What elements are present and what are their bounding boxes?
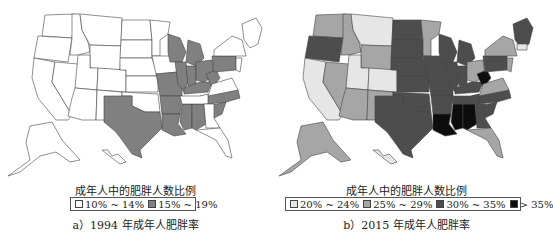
us-map-1994 — [0, 0, 271, 180]
state-nj — [236, 58, 242, 72]
state-ms — [180, 104, 192, 130]
state-or — [34, 36, 72, 62]
legend-1994: 10% ~ 14% 15% ~ 19% — [70, 197, 196, 211]
panel-2015: 成年人中的肥胖人数比例 20% ~ 24% 25% ~ 29% 30% ~ 35… — [271, 0, 542, 236]
state-al — [192, 104, 206, 130]
state-wy — [90, 45, 121, 70]
swatch-white-icon — [75, 200, 83, 208]
legend-title: 成年人中的肥胖人数比例 — [271, 182, 542, 198]
caption-1994: a）1994 年成年人肥胖率 — [0, 216, 271, 232]
legend-item-over-35: > 35% — [510, 199, 553, 210]
legend-title: 成年人中的肥胖人数比例 — [0, 182, 271, 198]
legend-item-25-29: 25% ~ 29% — [363, 199, 432, 210]
us-map-2015 — [271, 0, 542, 180]
state-ks — [126, 76, 158, 92]
state-wi — [168, 34, 186, 62]
legend-2015: 20% ~ 24% 25% ~ 29% 30% ~ 35% > 35% — [285, 197, 521, 211]
panel-1994: 成年人中的肥胖人数比例 10% ~ 14% 15% ~ 19% a）1994 年… — [0, 0, 271, 236]
caption-2015: b）2015 年成年人肥胖率 — [271, 216, 542, 232]
state-ne — [120, 58, 158, 76]
state-nd — [121, 20, 152, 40]
state-tn — [180, 94, 208, 104]
legend-item-10-14: 10% ~ 14% — [75, 199, 144, 210]
state-hi — [102, 150, 126, 164]
swatch-gray-icon — [148, 200, 156, 208]
swatch-lightgray-icon — [290, 200, 298, 208]
state-wa — [42, 14, 75, 38]
state-fl — [196, 128, 232, 158]
swatch-gray-icon — [363, 200, 371, 208]
state-pa — [212, 56, 236, 72]
legend-item-30-35: 30% ~ 35% — [436, 199, 505, 210]
state-ak — [8, 122, 80, 176]
state-ar — [160, 96, 182, 114]
state-ny — [214, 36, 246, 56]
state-co — [97, 68, 126, 92]
state-ne-states — [242, 18, 262, 48]
swatch-darkgray-icon — [436, 200, 444, 208]
state-mn — [150, 20, 170, 56]
swatch-black-icon — [510, 200, 518, 208]
legend-item-20-24: 20% ~ 24% — [290, 199, 359, 210]
legend-item-15-19: 15% ~ 19% — [148, 199, 217, 210]
state-in — [186, 66, 196, 86]
state-sd — [120, 40, 152, 58]
